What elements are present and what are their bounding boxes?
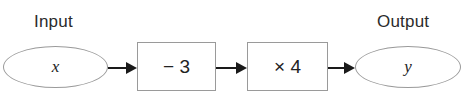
step-operation: − 3: [163, 56, 190, 78]
step-operation: × 4: [274, 56, 301, 78]
output-label: Output: [377, 12, 429, 32]
arrow-step1-to-step2: [216, 67, 245, 69]
arrow-step2-to-output: [328, 67, 353, 69]
output-ellipse: y: [355, 46, 461, 88]
step-box-subtract: − 3: [137, 42, 216, 91]
input-label: Input: [34, 12, 73, 32]
arrow-input-to-step1: [108, 67, 135, 69]
clipped-caption-line: [0, 0, 457, 2]
output-variable: y: [404, 57, 412, 77]
input-variable: x: [52, 57, 60, 77]
input-ellipse: x: [3, 46, 108, 88]
step-box-multiply: × 4: [247, 42, 328, 91]
